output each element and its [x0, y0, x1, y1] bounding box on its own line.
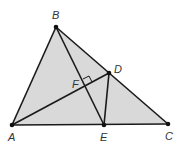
geometry-diagram: B D F A E C — [0, 0, 190, 155]
point-b — [54, 25, 59, 30]
point-a — [10, 123, 15, 128]
segment-ac — [12, 124, 168, 125]
triangle-abc-fill — [12, 27, 168, 125]
point-d — [107, 71, 112, 76]
point-e — [102, 123, 107, 128]
label-c: C — [165, 130, 173, 142]
label-e: E — [100, 131, 108, 143]
label-b: B — [52, 9, 59, 21]
point-c — [166, 122, 171, 127]
label-a: A — [7, 131, 15, 143]
label-d: D — [114, 63, 122, 75]
